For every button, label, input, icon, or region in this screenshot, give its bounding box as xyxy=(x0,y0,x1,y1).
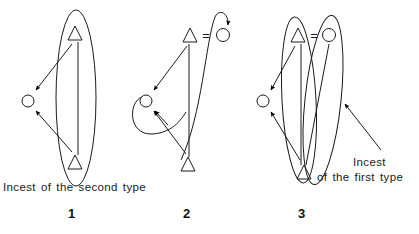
p3-arrow-bottom-to-circle xyxy=(271,112,300,160)
panel-number-3: 3 xyxy=(298,206,305,221)
p3-annotation-arrow xyxy=(345,104,381,150)
p1-triangle-bottom xyxy=(68,155,82,169)
p1-descent-group-ellipse xyxy=(56,10,96,186)
figure-root: = = Incest of the second type xyxy=(0,0,419,234)
p2-triangle-bottom xyxy=(181,157,195,171)
caption-incest-first-type-line1: Incest xyxy=(353,156,386,168)
caption-incest-first-type-line2: of the first type xyxy=(317,171,403,183)
p1-circle-left xyxy=(22,95,34,107)
p3-circle-top xyxy=(323,29,336,42)
p3-circle-left xyxy=(257,95,269,107)
p2-arrow-bottom-to-left-circle xyxy=(154,111,186,154)
p1-arrow-bottom-to-circle xyxy=(36,111,72,152)
p2-circle-top xyxy=(217,29,230,42)
p1-triangle-top xyxy=(68,26,82,40)
panel-number-2: 2 xyxy=(183,206,190,221)
kinship-diagram-svg: = = xyxy=(0,0,419,234)
p1-arrow-top-to-circle xyxy=(36,44,72,90)
p2-equals-sign: = xyxy=(202,28,210,43)
p3-triangle-top xyxy=(291,28,305,42)
p2-self-loop-arrowhead-path xyxy=(155,111,168,125)
panel-1 xyxy=(22,10,96,186)
p2-arrow-top-to-left-circle xyxy=(154,46,187,90)
p2-triangle-top xyxy=(183,28,197,42)
panel-2: = xyxy=(133,12,230,171)
p3-equals-sign: = xyxy=(310,28,318,43)
caption-incest-second-type: Incest of the second type xyxy=(3,181,146,193)
p3-descent-line-right xyxy=(306,44,329,165)
panel-number-1: 1 xyxy=(68,206,75,221)
